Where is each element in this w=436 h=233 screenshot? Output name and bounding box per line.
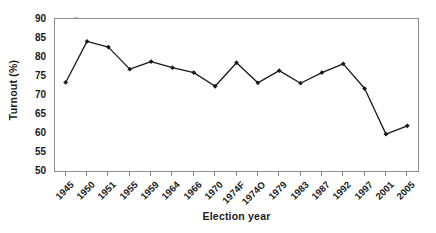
- y-axis-tick-label: 60: [35, 127, 46, 138]
- x-axis-tick-mark: [300, 172, 301, 176]
- x-axis-tick-label: 1959: [138, 179, 161, 202]
- y-axis-tick-label: 85: [35, 32, 46, 43]
- y-axis-tick-group: 505560657075808590: [24, 18, 50, 172]
- y-axis-tick-label: 50: [35, 165, 46, 176]
- x-axis-tick-mark: [278, 172, 279, 176]
- y-axis-tick-label: 80: [35, 51, 46, 62]
- x-axis-tick-mark: [65, 172, 66, 176]
- data-series-svg: [55, 19, 418, 171]
- x-axis-tick-group: 194519501951195519591964196619701974F197…: [54, 172, 419, 232]
- data-point-marker: [149, 59, 154, 64]
- plot-area: [54, 18, 419, 172]
- y-axis-title: Turnout (%): [2, 0, 24, 180]
- x-axis-tick-mark: [236, 172, 237, 176]
- y-axis-tick-label: 75: [35, 70, 46, 81]
- x-axis-tick-label: 1979: [266, 179, 289, 202]
- x-axis-tick-label: 1997: [352, 179, 375, 202]
- x-axis-tick-label: 1992: [330, 179, 353, 202]
- x-axis-tick-mark: [385, 172, 386, 176]
- x-axis-tick-label: 1964: [160, 179, 183, 202]
- x-axis-tick-label: 2005: [395, 179, 418, 202]
- y-axis-tick-label: 55: [35, 146, 46, 157]
- y-axis-tick-label: 65: [35, 108, 46, 119]
- y-axis-tick-label: 70: [35, 89, 46, 100]
- x-axis-tick-label: 1983: [288, 179, 311, 202]
- x-axis-tick-label: 2001: [373, 179, 396, 202]
- data-point-marker: [85, 39, 90, 44]
- data-point-marker: [320, 70, 325, 75]
- x-axis-tick-mark: [406, 172, 407, 176]
- data-point-marker: [63, 80, 68, 85]
- x-axis-tick-mark: [171, 172, 172, 176]
- x-axis-tick-label: 1966: [181, 179, 204, 202]
- x-axis-tick-label: 1950: [74, 179, 97, 202]
- x-axis-tick-label: 1955: [117, 179, 140, 202]
- x-axis-tick-mark: [107, 172, 108, 176]
- x-axis-tick-mark: [342, 172, 343, 176]
- data-point-marker: [405, 123, 410, 128]
- data-point-marker: [384, 132, 389, 137]
- y-axis-tick-label: 90: [35, 13, 46, 24]
- data-point-marker: [170, 65, 175, 70]
- x-axis-tick-label: 1945: [53, 179, 76, 202]
- x-axis-tick-mark: [86, 172, 87, 176]
- x-axis-tick-mark: [193, 172, 194, 176]
- x-axis-tick-mark: [129, 172, 130, 176]
- series-line-turnout: [66, 41, 408, 134]
- x-axis-title: Election year: [54, 210, 419, 222]
- x-axis-tick-label: 1951: [96, 179, 119, 202]
- x-axis-tick-mark: [214, 172, 215, 176]
- y-axis-title-text: Turnout (%): [7, 60, 19, 120]
- x-axis-tick-label: 1987: [309, 179, 332, 202]
- x-axis-tick-mark: [257, 172, 258, 176]
- x-axis-tick-mark: [150, 172, 151, 176]
- turnout-line-chart: Turnout (%) 505560657075808590 194519501…: [0, 0, 436, 233]
- x-axis-tick-mark: [321, 172, 322, 176]
- x-axis-tick-mark: [364, 172, 365, 176]
